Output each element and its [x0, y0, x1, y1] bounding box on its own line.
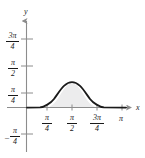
x-tick-label-pi: π	[119, 115, 123, 123]
y-tick-label-pi-over-2: π 2	[8, 59, 18, 78]
x-tick-label-pi-over-4: π 4	[42, 114, 52, 133]
x-tick-pi-over-2-denominator: 2	[67, 124, 77, 133]
y-tick-neg-pi-over-4-numerator: π	[10, 127, 20, 136]
y-tick-pi-over-2-numerator: π	[8, 59, 18, 68]
minus-sign: –	[5, 134, 9, 142]
plot-area	[0, 0, 145, 158]
x-tick-pi-over-2-numerator: π	[67, 114, 77, 123]
y-tick-label-pi-over-4: π 4	[8, 86, 18, 105]
x-tick-label-3pi-over-4: 3π 4	[90, 114, 104, 133]
shaded-area	[47, 83, 97, 107]
math-figure: y x 3π 4 π 2 π 4 – π 4 π 4 π 2 3π 4	[0, 0, 145, 158]
y-tick-pi-over-4-denominator: 4	[8, 96, 18, 105]
x-tick-3pi-over-4-numerator: 3π	[90, 114, 104, 123]
y-tick-neg-pi-over-4-denominator: 4	[10, 137, 20, 146]
y-tick-label-neg-pi-over-4: – π 4	[10, 127, 20, 146]
x-tick-pi-over-4-numerator: π	[42, 114, 52, 123]
y-tick-pi-over-4-numerator: π	[8, 86, 18, 95]
y-tick-3pi-over-4-denominator: 4	[6, 42, 19, 51]
y-tick-pi-over-2-denominator: 2	[8, 69, 18, 78]
y-axis-label: y	[24, 8, 28, 16]
x-tick-pi-numerator: π	[119, 114, 123, 123]
x-axis-label: x	[136, 104, 140, 112]
x-tick-3pi-over-4-denominator: 4	[90, 124, 104, 133]
y-tick-3pi-over-4-numerator: 3π	[6, 32, 19, 41]
y-tick-label-3pi-over-4: 3π 4	[6, 32, 19, 51]
x-tick-pi-over-4-denominator: 4	[42, 124, 52, 133]
x-tick-label-pi-over-2: π 2	[67, 114, 77, 133]
